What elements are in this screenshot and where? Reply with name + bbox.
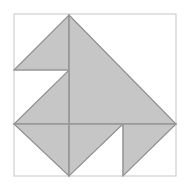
piece-large-right-triangle [69, 15, 176, 124]
piece-bottom-right-triangle [123, 124, 176, 176]
piece-top-left-triangle [14, 15, 69, 70]
tangram-dissection-diagram [0, 0, 190, 189]
tangram-figure-container [0, 0, 190, 189]
piece-bottom-left-triangle [14, 124, 69, 176]
piece-middle-left-triangle [14, 70, 69, 124]
piece-bottom-center-triangle [69, 124, 123, 176]
